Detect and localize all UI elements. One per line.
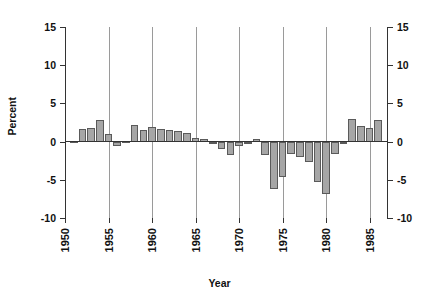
y-tick-right <box>387 142 393 143</box>
left-y-axis <box>65 27 66 218</box>
gridline-vertical <box>109 27 110 218</box>
bar <box>305 142 313 163</box>
bar <box>113 142 121 147</box>
y-tick-label-left: -5 <box>47 175 56 185</box>
gridline-vertical <box>196 27 197 218</box>
y-tick-right <box>387 218 393 219</box>
bar <box>218 142 226 150</box>
y-tick-left <box>60 65 66 66</box>
y-tick-label-right: 0 <box>397 137 403 147</box>
y-tick-right <box>387 27 393 28</box>
y-tick-label-right: 15 <box>397 22 409 32</box>
bar <box>227 142 235 156</box>
x-tick <box>196 218 197 223</box>
bar <box>87 128 95 142</box>
bar <box>157 129 165 142</box>
x-tick-label: 1965 <box>190 228 202 252</box>
x-tick <box>326 218 327 223</box>
bar <box>96 120 104 141</box>
bar <box>261 142 269 156</box>
bar <box>366 128 374 142</box>
bar <box>331 142 339 154</box>
x-tick-label: 1955 <box>103 228 115 252</box>
gridline-vertical <box>239 27 240 218</box>
x-tick <box>152 218 153 223</box>
bar <box>79 129 87 141</box>
bar <box>140 130 148 141</box>
gridline-vertical <box>283 27 284 218</box>
x-tick <box>239 218 240 223</box>
y-tick-left <box>60 142 66 143</box>
y-tick-label-left: 0 <box>50 137 56 147</box>
bar <box>279 142 287 177</box>
x-tick <box>109 218 110 223</box>
y-tick-label-right: -5 <box>397 175 406 185</box>
bar <box>357 126 365 141</box>
y-tick-left <box>60 180 66 181</box>
bar <box>174 131 182 142</box>
x-tick <box>283 218 284 223</box>
x-tick-label: 1950 <box>59 228 71 252</box>
y-tick-label-right: 5 <box>397 98 403 108</box>
gridline-vertical <box>152 27 153 218</box>
bar-chart-figure: Percent 151510105500-5-5-10-101950195519… <box>0 0 439 299</box>
y-tick-right <box>387 65 393 66</box>
y-tick-label-left: 15 <box>44 22 56 32</box>
right-y-axis <box>387 27 388 218</box>
y-tick-right <box>387 180 393 181</box>
y-tick-label-left: 10 <box>44 60 56 70</box>
bar <box>270 142 278 189</box>
y-tick-left <box>60 103 66 104</box>
bar <box>296 142 304 157</box>
x-tick-label: 1985 <box>364 228 376 252</box>
x-tick-label: 1970 <box>233 228 245 252</box>
y-tick-label-right: 10 <box>397 60 409 70</box>
x-tick <box>65 218 66 223</box>
x-tick-label: 1975 <box>277 228 289 252</box>
x-tick <box>370 218 371 223</box>
x-tick-label: 1960 <box>146 228 158 252</box>
bar <box>131 125 139 142</box>
x-tick-label: 1980 <box>320 228 332 252</box>
bar <box>235 142 243 147</box>
bar <box>348 119 356 141</box>
bar <box>322 142 330 194</box>
y-tick-right <box>387 103 393 104</box>
zero-baseline <box>65 141 388 142</box>
gridline-vertical <box>370 27 371 218</box>
bar <box>148 127 156 142</box>
y-tick-label-right: -10 <box>397 213 412 223</box>
x-axis-title: Year <box>0 277 439 289</box>
y-axis-title: Percent <box>6 97 18 136</box>
bar <box>314 142 322 182</box>
y-tick-label-left: 5 <box>50 98 56 108</box>
bar <box>287 142 295 154</box>
bar <box>166 130 174 141</box>
y-tick-label-left: -10 <box>41 213 56 223</box>
y-tick-left <box>60 27 66 28</box>
bar <box>374 120 382 141</box>
